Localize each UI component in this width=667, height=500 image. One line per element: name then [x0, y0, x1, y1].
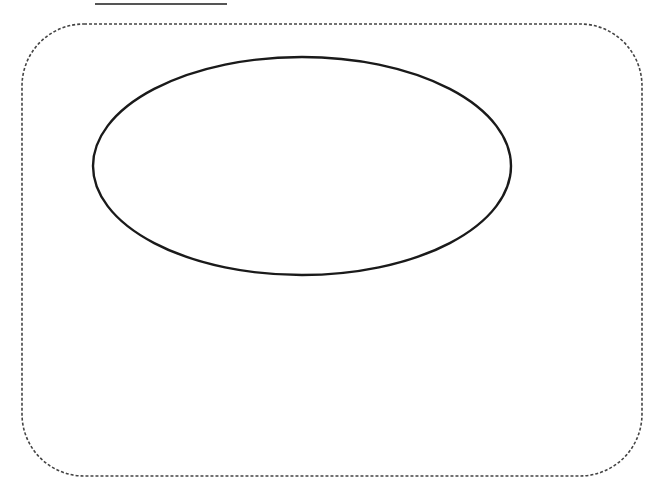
drawing-canvas [0, 0, 667, 500]
background [0, 0, 667, 500]
